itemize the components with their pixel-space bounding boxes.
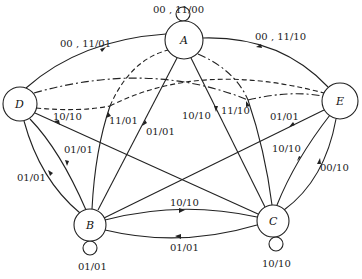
label-c-e: 00/10 bbox=[320, 162, 349, 173]
label-b-c: 10/10 bbox=[170, 197, 199, 208]
edge-junction-e-dashed bbox=[110, 79, 324, 106]
label-d-b: 01/01 bbox=[64, 144, 93, 155]
edge-c-junction bbox=[248, 100, 272, 205]
svg-text:E: E bbox=[335, 95, 344, 108]
edge-a-c-dashdot bbox=[198, 54, 248, 100]
label-b-d: 01/01 bbox=[17, 172, 46, 183]
label-d-c: 10/10 bbox=[53, 111, 82, 122]
self-loop-c bbox=[269, 237, 283, 251]
label-c-a: 11/10 bbox=[221, 105, 250, 116]
label-c-self: 10/10 bbox=[262, 258, 291, 269]
edge-d-junction-dashdot bbox=[34, 78, 248, 100]
edge-b-d bbox=[24, 121, 80, 213]
self-loop-b bbox=[83, 241, 97, 255]
node-b: B bbox=[74, 209, 106, 241]
label-a-b: 01/01 bbox=[146, 126, 175, 137]
label-e-a: 00 , 11/10 bbox=[255, 31, 306, 42]
label-e-c: 10/10 bbox=[272, 143, 301, 154]
edge-junction-e-dashdot bbox=[248, 94, 322, 100]
label-d-a: 00 , 11/01 bbox=[60, 38, 111, 49]
svg-text:D: D bbox=[14, 98, 24, 111]
edge-b-junction bbox=[92, 106, 110, 209]
edge-d-junction-dashed bbox=[36, 106, 110, 110]
label-a-self: 00 , 11/00 bbox=[153, 4, 204, 15]
svg-text:C: C bbox=[269, 215, 278, 228]
state-diagram: A B C D E 00 , 11/00 00 , 11/01 00 , 11/… bbox=[0, 0, 362, 279]
node-d: D bbox=[3, 87, 37, 121]
label-a-c: 10/10 bbox=[182, 110, 211, 121]
node-c: C bbox=[257, 205, 289, 237]
svg-text:A: A bbox=[179, 34, 188, 47]
label-b-self: 01/01 bbox=[78, 261, 107, 272]
label-b-a: 11/01 bbox=[109, 115, 138, 126]
node-a: A bbox=[165, 21, 203, 59]
label-e-b: 01/01 bbox=[270, 111, 299, 122]
node-e: E bbox=[322, 83, 358, 119]
label-c-b: 01/01 bbox=[170, 242, 199, 253]
svg-text:B: B bbox=[85, 219, 94, 232]
